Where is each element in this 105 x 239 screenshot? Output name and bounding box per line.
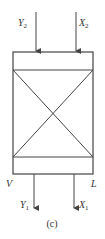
label-x1: X1 bbox=[78, 199, 89, 212]
label-x2: X2 bbox=[78, 17, 89, 30]
label-y1: Y1 bbox=[20, 199, 30, 212]
label-l: L bbox=[90, 178, 97, 189]
caption: (c) bbox=[46, 218, 57, 230]
column-diagram: Y2 X2 V L Y1 X1 (c) bbox=[0, 0, 105, 239]
label-y2: Y2 bbox=[18, 17, 28, 30]
label-v: V bbox=[6, 178, 14, 189]
